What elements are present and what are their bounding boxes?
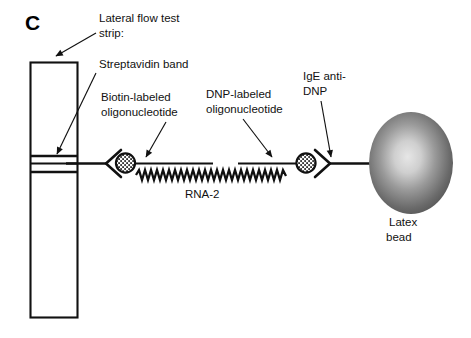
latex-bead [369, 112, 453, 214]
label-ige-line1: IgE anti- [303, 70, 346, 82]
arrow-ige-anti-dnp [321, 101, 331, 157]
label-lateral-flow-line2: strip: [99, 27, 124, 39]
label-ige-line2: DNP [303, 85, 328, 97]
label-streptavidin-band: Streptavidin band [99, 58, 189, 70]
label-latex-line2: bead [386, 231, 412, 243]
label-biotin-line2: oligonucleotide [101, 106, 178, 118]
biotin-bead [116, 153, 135, 172]
ige-anti-dnp-antibody [315, 150, 330, 177]
panel-letter: C [25, 11, 40, 34]
label-lateral-flow-line1: Lateral flow test [99, 12, 180, 24]
label-biotin-line1: Biotin-labeled [101, 91, 171, 103]
test-strip-body [31, 63, 78, 318]
label-rna2: RNA-2 [185, 188, 220, 200]
rna2-strand [136, 170, 286, 180]
diagram-canvas: C Lateral flow tes [0, 0, 471, 338]
antibody-arms-right [315, 150, 330, 177]
label-dnp-line2: oligonucleotide [206, 103, 283, 115]
figure-panel-c: C Lateral flow tes [0, 0, 471, 338]
dnp-bead [296, 153, 315, 172]
arrow-biotin-oligonucleotide [146, 122, 166, 157]
arrow-dnp-oligonucleotide [243, 119, 272, 157]
label-latex-line1: Latex [389, 216, 417, 228]
label-dnp-line1: DNP-labeled [206, 88, 271, 100]
arrow-lateral-flow [56, 33, 96, 56]
